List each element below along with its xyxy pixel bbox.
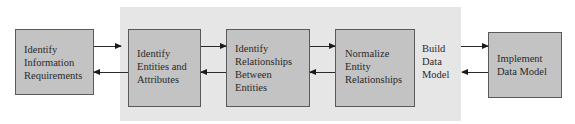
- node-identify-information-requirements: Identify Information Requirements: [15, 29, 94, 95]
- node-label-line: Normalize: [345, 47, 414, 60]
- node-implement-data-model: Implement Data Model: [488, 32, 562, 98]
- node-label-line: Entities: [235, 81, 309, 94]
- node-label-line: Identify: [235, 42, 309, 55]
- arrow-left-icon: [462, 72, 488, 73]
- group-label-line: Data: [422, 55, 449, 68]
- node-label-line: Attributes: [137, 73, 200, 86]
- arrow-left-icon: [201, 72, 226, 73]
- node-label-line: Relationships: [235, 55, 309, 68]
- node-label-line: Data Model: [497, 65, 561, 78]
- node-label-line: Entities and: [137, 60, 200, 73]
- node-label-line: Relationships: [345, 73, 414, 86]
- build-data-model-label: Build Data Model: [422, 42, 449, 81]
- node-label-line: Information: [24, 56, 93, 69]
- group-label-line: Build: [422, 42, 449, 55]
- node-normalize-entity-relationships: Normalize Entity Relationships: [335, 29, 415, 107]
- group-label-line: Model: [422, 68, 449, 81]
- node-label-line: Implement: [497, 52, 561, 65]
- arrow-right-icon: [461, 46, 488, 47]
- arrow-right-icon: [310, 46, 335, 47]
- node-label-line: Requirements: [24, 69, 93, 82]
- arrow-left-icon: [310, 72, 335, 73]
- node-label-line: Identify: [137, 47, 200, 60]
- arrow-left-icon: [94, 72, 128, 73]
- node-label-line: Between: [235, 68, 309, 81]
- node-identify-relationships: Identify Relationships Between Entities: [226, 29, 310, 107]
- arrow-right-icon: [201, 46, 226, 47]
- node-label-line: Identify: [24, 43, 93, 56]
- node-label-line: Entity: [345, 60, 414, 73]
- node-identify-entities-attributes: Identify Entities and Attributes: [128, 29, 201, 107]
- arrow-right-icon: [94, 46, 121, 47]
